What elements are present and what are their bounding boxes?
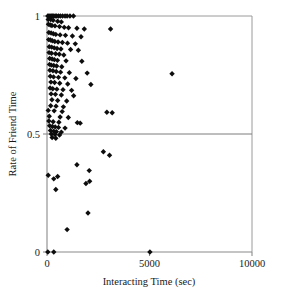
data-point (56, 120, 61, 125)
data-point (48, 91, 53, 96)
x-tick-labels: 0500010000 (44, 258, 265, 269)
data-point (78, 34, 83, 39)
data-point (53, 103, 58, 108)
data-point (56, 75, 61, 80)
data-point (64, 98, 69, 103)
data-point (101, 149, 106, 154)
data-point (73, 76, 78, 81)
data-point (57, 32, 62, 37)
data-point (59, 92, 64, 97)
data-point (66, 25, 71, 30)
data-point (62, 125, 67, 130)
data-point (55, 98, 60, 103)
data-point (65, 81, 70, 86)
plot-canvas: 0500010000 00.51 Interacting Time (sec) … (0, 0, 283, 299)
data-point (59, 109, 64, 114)
data-point (46, 173, 51, 178)
data-point (107, 153, 112, 158)
data-point (62, 25, 67, 30)
x-tick-label: 5000 (139, 258, 160, 269)
data-point (74, 26, 79, 31)
data-point (53, 92, 58, 97)
data-point (55, 39, 60, 44)
data-point (87, 168, 92, 173)
tick-marks (43, 16, 252, 256)
data-point (61, 104, 66, 109)
data-point (57, 114, 62, 119)
data-point (74, 162, 79, 167)
data-point (54, 86, 59, 91)
data-point (52, 80, 57, 85)
data-point (104, 110, 109, 115)
data-point (82, 26, 87, 31)
data-point (65, 40, 70, 45)
data-point (108, 26, 113, 31)
data-point (60, 87, 65, 92)
data-point (53, 187, 58, 192)
x-axis-title: Interacting Time (sec) (103, 276, 196, 288)
data-point (61, 52, 66, 57)
data-point (59, 19, 64, 24)
data-point (57, 24, 62, 29)
data-point (59, 64, 64, 69)
y-tick-labels: 00.51 (27, 11, 40, 258)
data-point (88, 82, 93, 87)
y-tick-label: 0.5 (27, 129, 40, 140)
data-point (76, 48, 81, 53)
data-point (67, 70, 72, 75)
y-tick-label: 1 (35, 11, 40, 22)
scatter-plot-figure: 0500010000 00.51 Interacting Time (sec) … (0, 0, 283, 299)
data-point (51, 108, 56, 113)
data-point (147, 249, 152, 254)
data-point (84, 70, 89, 75)
data-point (62, 75, 67, 80)
data-point (73, 41, 78, 46)
data-point (58, 46, 63, 51)
data-point (85, 210, 90, 215)
data-point (49, 97, 54, 102)
data-point (60, 40, 65, 45)
data-point (69, 88, 74, 93)
data-point (51, 249, 56, 254)
data-point (64, 227, 69, 232)
data-point (71, 13, 76, 18)
data-point (109, 110, 114, 115)
data-point (57, 81, 62, 86)
data-point (70, 33, 75, 38)
data-point (50, 119, 55, 124)
x-tick-label: 10000 (239, 258, 265, 269)
data-point (48, 103, 53, 108)
data-point (79, 59, 84, 64)
data-point (71, 93, 76, 98)
x-tick-label: 0 (44, 258, 49, 269)
data-point (46, 108, 51, 113)
y-axis-title: Rate of Friend Time (7, 91, 18, 176)
data-point (63, 33, 68, 38)
data-point (63, 58, 68, 63)
data-point (58, 69, 63, 74)
data-point (57, 52, 62, 57)
data-point (45, 249, 50, 254)
data-point (169, 71, 174, 76)
data-point (68, 47, 73, 52)
y-tick-label: 0 (35, 247, 40, 258)
data-point (66, 115, 71, 120)
data-point (53, 136, 58, 141)
